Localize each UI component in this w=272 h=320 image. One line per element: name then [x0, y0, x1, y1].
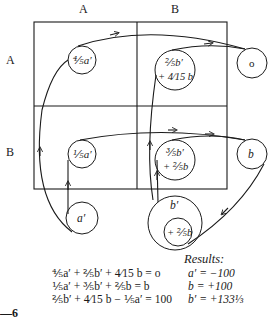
- column-label-a: A: [79, 2, 88, 16]
- column-label-b: B: [171, 2, 179, 16]
- result-b: b = +100: [188, 280, 232, 293]
- row-label-b: B: [6, 145, 14, 159]
- label-sink-o: o: [249, 57, 255, 69]
- label-a-row-a: ⅘a′: [73, 54, 92, 66]
- row-label-a: A: [6, 53, 15, 67]
- label-source-b: b′: [170, 199, 179, 211]
- equation-1: ⅘a′ + ⅖b′ + 4⁄15 b = o: [52, 267, 160, 280]
- label-b-row-a-2: + 4⁄15 b: [158, 71, 193, 82]
- label-b-row-b-2: + ⅖b: [163, 161, 188, 172]
- flow-a-to-o: [78, 35, 245, 49]
- matrix-grid: [34, 22, 227, 189]
- equation-3: ⅖b′ + 4⁄15 b − ⅕a′ = 100: [52, 293, 172, 306]
- node-b-row-b: [155, 140, 195, 180]
- label-a-row-b: ⅕a′: [73, 148, 92, 160]
- label-b-row-a-1: ⅖b′: [165, 57, 183, 68]
- label-source-a: a′: [77, 212, 86, 224]
- result-b-prime: b′ = +133⅓: [188, 293, 243, 306]
- flow-source-a-up: [39, 60, 72, 232]
- label-sink-b: b: [248, 148, 254, 160]
- node-b-row-a: [155, 50, 195, 90]
- result-a: a′ = −100: [188, 267, 235, 280]
- results-title: Results:: [184, 252, 224, 267]
- label-source-b-inner: + ⅖b: [167, 227, 192, 238]
- equation-2: ⅕a′ + ⅗b′ + ⅖b = b: [52, 280, 150, 293]
- figure-label: —6: [0, 306, 18, 320]
- label-b-row-b-1: ⅗b′: [166, 147, 184, 158]
